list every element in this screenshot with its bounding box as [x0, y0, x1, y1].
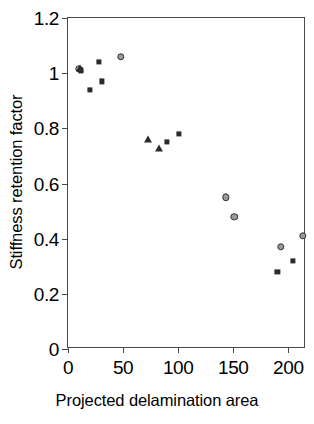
data-point-triangle: [144, 136, 152, 143]
y-axis-tick-label: 0.2: [34, 284, 59, 303]
data-point-square: [165, 140, 170, 145]
y-axis-title: Stiffness retention factor: [8, 94, 25, 269]
data-point-circle: [277, 243, 284, 250]
data-point-square: [96, 60, 101, 65]
data-point-circle: [222, 194, 229, 201]
y-axis-tick-label: 1.2: [34, 9, 59, 28]
data-point-triangle: [155, 144, 163, 151]
y-axis-tick-label: 0.4: [34, 229, 59, 248]
x-axis-tick: [123, 347, 124, 353]
x-axis-tick-label: 50: [113, 358, 133, 377]
x-axis-tick: [233, 347, 234, 353]
data-point-square: [87, 87, 92, 92]
y-axis-tick-label: 0.6: [34, 174, 59, 193]
x-axis-tick-label: 150: [218, 358, 249, 377]
plot-area: 00.20.40.60.811.2050100150200: [67, 17, 305, 348]
x-axis-tick: [178, 347, 179, 353]
data-point-circle: [117, 53, 124, 60]
data-point-triangle: [76, 64, 84, 71]
data-point-square: [177, 131, 182, 136]
y-axis-tick-label: 0.8: [34, 119, 59, 138]
x-axis-tick-label: 100: [163, 358, 194, 377]
x-axis-title: Projected delamination area: [0, 392, 314, 409]
data-layer: [68, 18, 304, 347]
x-axis-tick-label: 0: [63, 358, 73, 377]
data-point-circle: [299, 232, 306, 239]
data-point-square: [275, 269, 280, 274]
x-axis-tick-label: 200: [273, 358, 304, 377]
y-axis-tick-label: 0: [49, 340, 59, 359]
data-point-square: [290, 258, 295, 263]
chart-figure: Stiffness retention factor 00.20.40.60.8…: [0, 0, 314, 424]
data-point-square: [100, 79, 105, 84]
x-axis-tick: [68, 347, 69, 353]
x-axis-tick: [288, 347, 289, 353]
y-axis-tick-label: 1: [49, 64, 59, 83]
data-point-circle: [231, 213, 238, 220]
